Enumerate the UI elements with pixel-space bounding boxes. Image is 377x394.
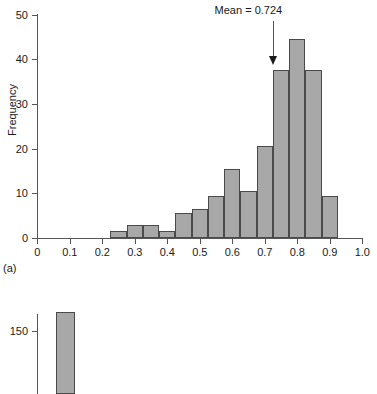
x-tick-label: 0.2	[87, 246, 117, 259]
histogram-bar	[143, 225, 159, 238]
x-tick	[330, 239, 331, 244]
x-tick-label: 0.7	[250, 246, 280, 259]
x-tick	[297, 239, 298, 244]
x-tick	[37, 239, 38, 244]
y-tick	[32, 193, 37, 194]
histogram-bar	[208, 196, 224, 239]
x-tick	[135, 239, 136, 244]
y-tick-label: 30	[0, 99, 28, 110]
histogram-panel-a: Frequency 01020304050 00.10.20.30.40.50.…	[0, 0, 377, 275]
histogram-bar	[240, 191, 256, 238]
x-tick	[200, 239, 201, 244]
histogram-bar	[305, 70, 321, 238]
x-tick-label: 0.9	[315, 246, 345, 259]
y-tick	[32, 15, 37, 16]
b-y-tick-label: 150	[0, 326, 28, 337]
y-axis-line	[37, 14, 38, 238]
x-tick-label: 0.6	[217, 246, 247, 259]
histogram-bar	[110, 231, 126, 238]
histogram-bar	[289, 39, 305, 238]
histogram-bar	[273, 70, 289, 238]
y-tick	[32, 104, 37, 105]
x-tick-label: 0.5	[185, 246, 215, 259]
mean-annotation-label: Mean = 0.724	[215, 4, 283, 17]
x-tick	[265, 239, 266, 244]
histogram-bar	[192, 209, 208, 238]
x-tick-label: 1.0	[347, 246, 377, 259]
y-tick-label: 50	[0, 10, 28, 21]
panel-label-a: (a)	[3, 262, 16, 275]
y-tick	[32, 149, 37, 150]
histogram-bar	[175, 213, 191, 238]
x-tick	[70, 239, 71, 244]
down-arrow-icon	[269, 56, 277, 65]
x-tick	[232, 239, 233, 244]
histogram-bar	[159, 231, 175, 238]
b-y-tick	[32, 331, 37, 332]
x-tick-label: 0.8	[282, 246, 312, 259]
x-tick	[102, 239, 103, 244]
histogram-bar	[224, 169, 240, 238]
plot-area-a: Frequency 01020304050 00.10.20.30.40.50.…	[0, 0, 377, 275]
y-tick	[32, 238, 37, 239]
histogram-bar	[322, 196, 338, 239]
x-tick-label: 0.4	[152, 246, 182, 259]
histogram-bar	[127, 225, 143, 238]
mean-arrow-shaft	[273, 21, 274, 59]
x-tick-label: 0	[22, 246, 52, 259]
y-tick-label: 10	[0, 188, 28, 199]
x-tick	[167, 239, 168, 244]
x-tick	[362, 239, 363, 244]
y-tick-label: 40	[0, 54, 28, 65]
y-tick	[32, 59, 37, 60]
x-tick-label: 0.3	[120, 246, 150, 259]
y-tick-label: 20	[0, 144, 28, 155]
y-tick-label: 0	[0, 233, 28, 244]
b-y-axis-line	[37, 314, 38, 394]
histogram-panel-b: 150	[0, 300, 377, 394]
histogram-bar	[257, 146, 273, 238]
b-bar	[56, 312, 75, 394]
x-tick-label: 0.1	[55, 246, 85, 259]
